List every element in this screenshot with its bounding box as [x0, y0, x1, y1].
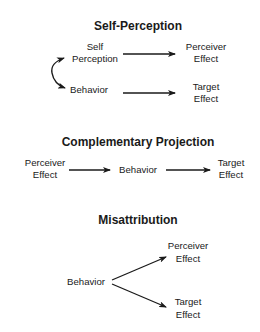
complementary-projection-diagram: Complementary Projection Perceiver Effec…	[25, 135, 245, 180]
node-perceiver-effect-line2: Effect	[176, 253, 201, 264]
node-behavior: Behavior	[67, 276, 106, 287]
node-perceiver-effect-line2: Effect	[194, 53, 219, 64]
node-behavior: Behavior	[70, 84, 109, 95]
node-target-effect-line2: Effect	[176, 309, 201, 320]
misattribution-diagram: Misattribution Behavior Perceiver Effect…	[67, 213, 209, 320]
node-perceiver-effect-line2: Effect	[33, 169, 58, 180]
node-behavior: Behavior	[119, 164, 158, 175]
node-target-effect-line2: Effect	[219, 169, 244, 180]
diagram-canvas: Self-Perception Self Perception Behavior…	[0, 0, 260, 332]
node-perceiver-effect-line1: Perceiver	[168, 240, 209, 251]
node-target-effect-line1: Target	[218, 157, 245, 168]
node-target-effect-line1: Target	[193, 81, 220, 92]
node-target-effect-line1: Target	[175, 296, 202, 307]
arrow-behavior-to-perceiver-effect	[112, 257, 166, 280]
node-perceiver-effect-line1: Perceiver	[25, 157, 66, 168]
node-self-perception-line2: Perception	[72, 53, 118, 64]
bidirectional-curved-arrow	[52, 58, 65, 88]
misattribution-title: Misattribution	[98, 213, 177, 227]
complementary-projection-title: Complementary Projection	[62, 135, 215, 149]
self-perception-diagram: Self-Perception Self Perception Behavior…	[52, 19, 227, 104]
self-perception-title: Self-Perception	[94, 19, 182, 33]
node-target-effect-line2: Effect	[194, 93, 219, 104]
arrow-behavior-to-target-effect	[112, 284, 166, 307]
node-perceiver-effect-line1: Perceiver	[186, 41, 227, 52]
node-self-perception-line1: Self	[87, 41, 104, 52]
